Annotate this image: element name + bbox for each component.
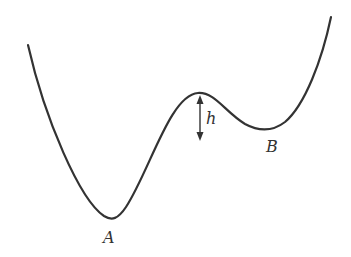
- label-minimum-b: B: [266, 139, 278, 155]
- energy-diagram: [0, 0, 351, 257]
- label-h: h: [206, 111, 216, 127]
- label-minimum-a: A: [103, 230, 115, 246]
- potential-curve: [28, 17, 331, 219]
- barrier-height-arrow: [197, 95, 204, 141]
